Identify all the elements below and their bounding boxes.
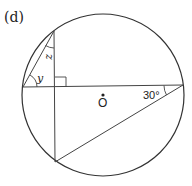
vertical-chord [54,31,55,162]
circle-theorem-diagram: (d) z y 30° O [0,0,192,186]
angle-label-y: y [36,72,44,85]
angle-label-z: z [43,53,56,60]
diagonal-chord [55,85,183,162]
angle-label-30: 30° [143,89,160,101]
angle-arc-z [46,46,55,49]
angle-arc-y [30,75,37,87]
figure-label: (d) [4,9,24,25]
horizontal-chord [23,85,183,87]
angle-arc-30 [164,86,167,96]
right-angle-marker [55,77,66,87]
center-label: O [98,96,107,110]
